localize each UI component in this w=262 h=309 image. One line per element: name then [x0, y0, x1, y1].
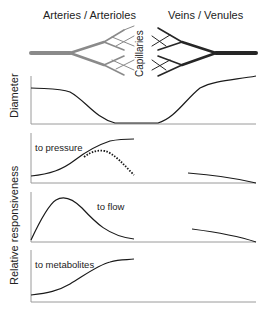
flow-label: to flow — [97, 201, 125, 212]
veins-label: Veins / Venules — [168, 9, 244, 21]
vascular-diagram: Arteries / Arterioles Veins / Venules Ca… — [0, 0, 262, 309]
panel-flow: to flow — [31, 192, 256, 242]
arterial-tree — [31, 26, 134, 75]
venous-tree — [152, 28, 256, 76]
responsiveness-axis-label: Relative responsiveness — [8, 165, 20, 285]
capillaries-label: Capillaries — [134, 30, 145, 77]
metabolites-label: to metabolites — [35, 259, 94, 270]
panel-pressure: to pressure — [31, 133, 256, 183]
panel-diameter — [31, 76, 256, 124]
diameter-axis-label: Diameter — [8, 73, 20, 118]
pressure-label: to pressure — [35, 142, 83, 153]
panel-metabolites: to metabolites — [31, 250, 256, 302]
arteries-label: Arteries / Arterioles — [43, 9, 136, 21]
